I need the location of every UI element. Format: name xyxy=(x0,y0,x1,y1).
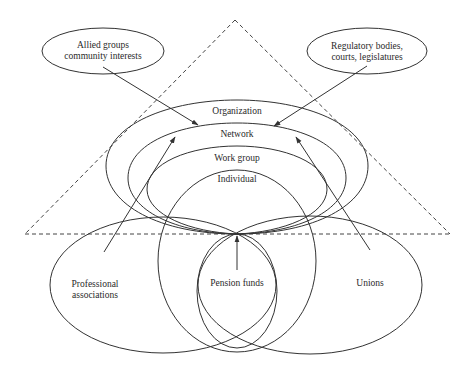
regulatory-label-line2: courts, legislatures xyxy=(331,52,403,62)
professional-label-line2: associations xyxy=(72,290,118,300)
allied-label-line2: community interests xyxy=(64,51,142,61)
allied-label-line1: Allied groups xyxy=(77,40,129,50)
unions-label: Unions xyxy=(356,278,384,288)
organization-label: Organization xyxy=(212,106,262,116)
regulatory-label-line1: Regulatory bodies, xyxy=(331,41,403,51)
organization-shape xyxy=(106,100,368,234)
regulatory-bodies-ellipse xyxy=(307,28,427,74)
pension-funds-label: Pension funds xyxy=(210,278,264,288)
professional-arrow xyxy=(104,137,175,252)
stakeholder-diagram: Allied groups community interests Regula… xyxy=(0,0,475,374)
professional-label-line1: Professional xyxy=(72,279,119,289)
unions-arrow xyxy=(296,137,370,250)
allied-arrow xyxy=(103,67,198,125)
network-label: Network xyxy=(220,129,253,139)
regulatory-arrow xyxy=(274,66,367,126)
individual-label: Individual xyxy=(217,174,256,184)
work-group-label: Work group xyxy=(214,153,260,163)
